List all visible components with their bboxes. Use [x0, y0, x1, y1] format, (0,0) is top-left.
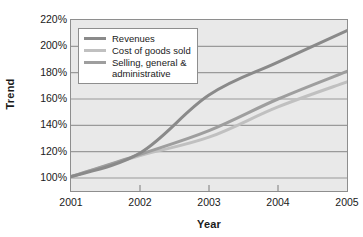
legend-item: Revenues — [84, 33, 191, 44]
legend-label: Revenues — [112, 33, 155, 44]
x-axis-tick-label: 2005 — [324, 196, 363, 208]
legend-color-swatch — [84, 37, 106, 40]
y-axis-tick-label: 160% — [27, 92, 67, 104]
x-axis-tick-label: 2004 — [255, 196, 301, 208]
legend-color-swatch — [84, 49, 106, 52]
x-axis-tick-label: 2002 — [117, 196, 163, 208]
series-line — [71, 71, 347, 176]
legend-label: Selling, general & administrative — [112, 57, 186, 79]
legend-label: Cost of goods sold — [112, 45, 191, 56]
legend-item: Cost of goods sold — [84, 45, 191, 56]
x-axis-tick-label: 2003 — [186, 196, 232, 208]
legend-item: Selling, general & administrative — [84, 57, 191, 79]
x-axis-title: Year — [70, 218, 348, 230]
y-axis-tick-label: 220% — [27, 13, 67, 25]
y-axis-tick-label: 120% — [27, 145, 67, 157]
chart-legend: RevenuesCost of goods soldSelling, gener… — [78, 28, 198, 84]
y-axis-tick-label: 140% — [27, 118, 67, 130]
y-axis-tick-label: 200% — [27, 39, 67, 51]
x-axis-tick-label: 2001 — [48, 196, 94, 208]
y-axis-tick-label: 180% — [27, 66, 67, 78]
y-axis-tick-label: 100% — [27, 171, 67, 183]
x-tick-marks — [140, 185, 278, 191]
legend-color-swatch — [84, 61, 106, 64]
y-axis-title: Trend — [4, 64, 16, 124]
